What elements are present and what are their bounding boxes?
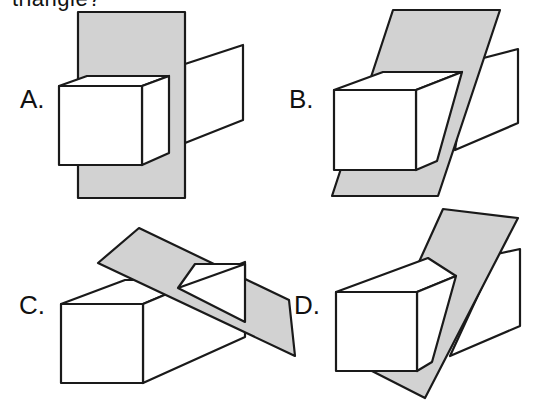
cube-front-b xyxy=(334,90,416,170)
cube-side-a xyxy=(142,76,169,165)
option-a-figure[interactable] xyxy=(59,12,243,198)
box-front-c xyxy=(61,304,143,383)
option-d-figure[interactable] xyxy=(336,209,520,398)
cube-front-a xyxy=(59,86,142,165)
option-c-figure[interactable] xyxy=(61,228,295,383)
prism-back-a xyxy=(185,45,243,143)
cube-front-d xyxy=(336,292,417,371)
option-b-figure[interactable] xyxy=(332,10,518,196)
figure-canvas xyxy=(0,0,534,408)
